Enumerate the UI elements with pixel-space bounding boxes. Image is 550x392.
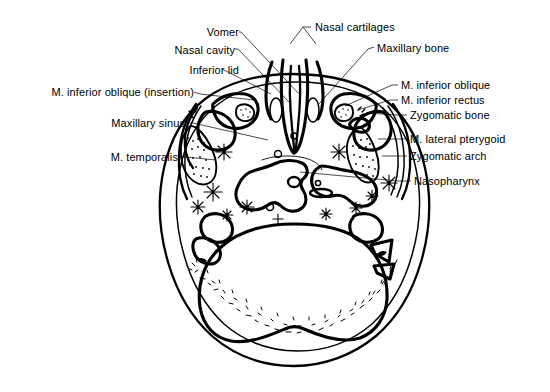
label-zygomatic-arch: Zygomatic arch <box>410 150 487 162</box>
label-m-inferior-rectus: M. inferior rectus <box>401 94 485 106</box>
label-vomer: Vomer <box>207 26 239 38</box>
label-zygomatic-bone: Zygomatic bone <box>410 109 490 121</box>
label-maxillary-bone: Maxillary bone <box>377 42 449 54</box>
star-mid-1 <box>240 200 254 214</box>
star-mid-2 <box>320 208 332 220</box>
star-left-1 <box>216 144 232 160</box>
label-m-inferior-oblique-insertion: M. inferior oblique (insertion) <box>52 86 195 98</box>
label-m-lateral-pterygoid: M. lateral pterygoid <box>410 133 506 145</box>
label-inferior-lid: Inferior lid <box>190 64 240 76</box>
star-left-2 <box>204 183 222 201</box>
lateral-pterygoid-stipple <box>352 131 376 177</box>
star-right-2 <box>381 175 397 191</box>
nasal-cartilages <box>266 62 323 119</box>
label-maxillary-sinus: Maxillary sinus <box>111 117 185 129</box>
nasopharynx-airway <box>262 156 322 170</box>
label-m-inferior-oblique: M. inferior oblique <box>401 79 490 91</box>
label-nasopharynx: Nasopharynx <box>414 175 480 187</box>
star-mid-3 <box>273 214 283 224</box>
star-left-3 <box>191 200 205 214</box>
star-right-1 <box>331 144 347 160</box>
label-nasal-cartilages: Nasal cartilages <box>315 21 395 33</box>
anatomical-figure: Inferior lid M. inferior oblique (insert… <box>0 0 550 392</box>
maxillary-region-right <box>331 93 391 150</box>
scalp-trabecular-texture <box>188 258 397 333</box>
star-right-3 <box>366 190 378 202</box>
label-nasal-cavity: Nasal cavity <box>175 44 236 56</box>
label-m-temporalis: M. temporalis <box>111 151 178 163</box>
